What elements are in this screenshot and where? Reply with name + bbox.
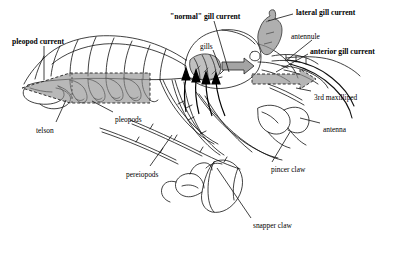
label-lateral-gill-current: lateral gill current: [296, 8, 355, 17]
shrimp-anatomy-figure: pleopod current "normal" gill current la…: [0, 0, 404, 259]
leader-telson: [56, 100, 66, 122]
leader-normal-gill-current: [214, 21, 229, 72]
label-antennule: antennule: [291, 32, 320, 41]
label-anterior-gill-current: anterior gill current: [310, 47, 375, 56]
leader-snapper-claw: [217, 168, 251, 218]
leader-gills: [213, 50, 220, 68]
leader-pleopods: [92, 101, 113, 112]
leader-third-maxilliped: [296, 88, 311, 91]
label-telson: telson: [36, 126, 54, 135]
label-pleopods: pleopods: [115, 115, 142, 124]
leader-pincer-claw: [272, 132, 290, 162]
label-snapper-claw: snapper claw: [253, 221, 292, 230]
label-antenna: antenna: [323, 125, 346, 134]
label-pincer-claw: pincer claw: [271, 165, 305, 174]
leader-pereiopods: [150, 135, 172, 166]
leader-antenna: [300, 118, 320, 123]
label-gills: gills: [200, 42, 213, 51]
label-pleopod-current: pleopod current: [12, 37, 64, 46]
label-pereiopods: pereiopods: [126, 170, 158, 179]
leader-lateral-gill-current: [268, 14, 293, 21]
label-normal-gill-current: "normal" gill current: [170, 12, 240, 21]
label-third-maxilliped: 3rd maxilliped: [314, 93, 357, 102]
leader-anterior-gill-current: [276, 54, 308, 72]
leader-antennule: [287, 40, 312, 60]
